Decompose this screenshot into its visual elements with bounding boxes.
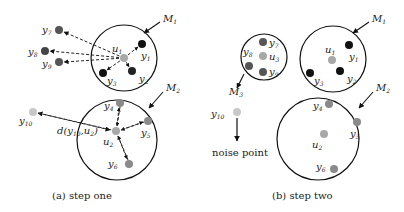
point-y3-panel-b: [306, 69, 314, 77]
arrow-y10-u2: [38, 113, 110, 130]
cluster-label-m2: M2: [165, 82, 180, 94]
point-label-y4: y4: [103, 100, 114, 112]
point-y8-panel-a: [41, 47, 49, 55]
point-label-y7: y7: [41, 24, 52, 36]
point-labels: M1M2u1y1y2y3y7y8y9u2y4y5y6y10M3M1M2y7u3y…: [18, 13, 390, 173]
point-label-y1: y1: [140, 50, 150, 62]
panel-a-distance-arrows: [38, 32, 144, 160]
arrow-u1-y9: [64, 58, 124, 62]
distance-annotation: d(y10,u2): [57, 125, 98, 137]
point-label-u2: u2: [312, 139, 322, 151]
point-label-u1: u1: [325, 44, 335, 56]
point-u1-panel-a: [120, 54, 128, 62]
point-label-y7: y7: [268, 37, 279, 49]
point-y2-panel-a: [128, 67, 136, 75]
point-label-y10: y10: [18, 115, 32, 127]
noise-point-label: noise point: [212, 147, 268, 158]
clustering-diagram: M1M2u1y1y2y3y7y8y9u2y4y5y6y10M3M1M2y7u3y…: [0, 0, 404, 212]
point-y1-panel-a: [138, 40, 146, 48]
point-y7-panel-b: [259, 38, 267, 46]
cluster-label-m1: M1: [162, 13, 177, 25]
caption-step-one: (a) step one: [52, 190, 112, 201]
point-label-y8: y8: [242, 46, 253, 58]
point-label-y3: y3: [106, 75, 117, 87]
point-y9-panel-a: [55, 58, 63, 66]
point-label-y9: y9: [268, 66, 279, 78]
point-y4-panel-b: [325, 100, 333, 108]
caption-step-two: (b) step two: [272, 190, 333, 201]
point-label-y4: y4: [312, 100, 323, 112]
cluster-arrow-m2: [359, 92, 373, 108]
point-y9-panel-b: [259, 68, 267, 76]
cluster-arrow-m2: [149, 92, 163, 108]
point-label-y5: y5: [140, 127, 151, 139]
cluster-arrow-m1: [144, 22, 160, 33]
point-y7-panel-a: [55, 26, 63, 34]
point-u2-panel-b: [320, 130, 328, 138]
point-y2-panel-b: [336, 67, 344, 75]
cluster-arrow-m1: [353, 22, 369, 33]
point-y6-panel-a: [125, 160, 133, 168]
point-u3-panel-b: [259, 52, 267, 60]
point-label-y2: y2: [138, 73, 149, 85]
point-label-y2: y2: [346, 73, 357, 85]
point-label-y10: y10: [210, 108, 224, 120]
point-y4-panel-a: [116, 99, 124, 107]
point-y10-panel-b: [233, 108, 241, 116]
point-y5-panel-b: [353, 118, 361, 126]
point-label-y6: y6: [107, 158, 118, 170]
point-y10-panel-a: [29, 108, 37, 116]
point-label-y3: y3: [313, 75, 324, 87]
point-label-u1: u1: [112, 43, 122, 55]
point-label-y8: y8: [27, 46, 38, 58]
point-y3-panel-a: [99, 69, 107, 77]
point-label-y6: y6: [315, 161, 326, 173]
point-label-y9: y9: [41, 58, 52, 70]
point-label-y1: y1: [348, 51, 358, 63]
cluster-label-m2: M2: [375, 82, 390, 94]
point-u1-panel-b: [328, 56, 336, 64]
point-y8-panel-b: [245, 62, 253, 70]
point-y1-panel-b: [345, 41, 353, 49]
point-label-u3: u3: [269, 51, 279, 63]
point-label-u2: u2: [103, 136, 113, 148]
cluster-label-m3: M3: [228, 86, 243, 98]
point-y6-panel-b: [330, 165, 338, 173]
cluster-label-m1: M1: [371, 13, 386, 25]
point-y5-panel-a: [144, 117, 152, 125]
point-u2-panel-a: [112, 127, 120, 135]
